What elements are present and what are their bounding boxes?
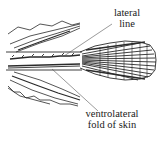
lower-anal-fin-rays	[8, 72, 80, 106]
leader-lines	[52, 24, 112, 111]
lateral-line-label-line2: line	[108, 18, 146, 29]
ventrolateral-fold-label-line1: ventrolateral	[78, 108, 146, 119]
ventrolateral-fold-leader	[52, 69, 98, 111]
caudal-fin	[80, 41, 156, 80]
lateral-line-label: lateral line	[108, 7, 146, 29]
ventrolateral-fold-label-line2: fold of skin	[78, 119, 146, 130]
caudal-peduncle	[6, 52, 82, 70]
ventrolateral-fold-label: ventrolateral fold of skin	[78, 108, 146, 130]
lateral-line-label-line1: lateral	[108, 7, 146, 18]
upper-dorsal-fin-rays	[8, 21, 80, 52]
